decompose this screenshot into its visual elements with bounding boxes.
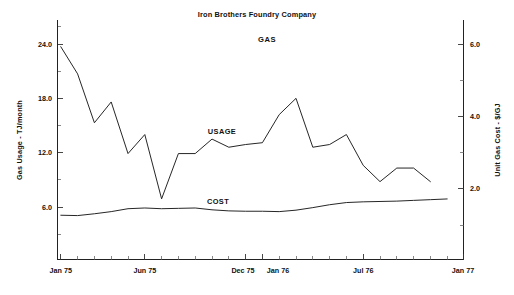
y2-axis-title: Unit Gas Cost - $/GJ xyxy=(493,103,502,177)
gas-chart: Iron Brothers Foundry Company GAS 24.0 1… xyxy=(0,0,514,295)
chart-title: Iron Brothers Foundry Company xyxy=(198,10,317,19)
usage-series-label: USAGE xyxy=(208,127,236,136)
xtick-label-jun75: Jun 75 xyxy=(133,266,156,275)
xtick-label-dec75: Dec 75 xyxy=(231,266,254,275)
chart-svg: Iron Brothers Foundry Company GAS 24.0 1… xyxy=(0,0,514,295)
ytick-label-6: 6.0 xyxy=(42,203,52,212)
y2tick-label-4: 4.0 xyxy=(470,112,480,121)
xtick-label-jan75: Jan 75 xyxy=(50,266,72,275)
y-axis-title: Gas Usage - TJ/month xyxy=(15,100,24,180)
chart-subtitle: GAS xyxy=(258,35,276,44)
chart-background xyxy=(0,0,514,295)
xtick-label-jan76: Jan 76 xyxy=(267,266,289,275)
xtick-label-jul76: Jul 76 xyxy=(353,266,373,275)
y2tick-label-6: 6.0 xyxy=(470,40,480,49)
ytick-label-12: 12.0 xyxy=(38,148,52,157)
y2tick-label-2: 2.0 xyxy=(470,184,480,193)
cost-series-label: COST xyxy=(207,197,229,206)
ytick-label-24: 24.0 xyxy=(38,40,52,49)
xtick-label-jan77: Jan 77 xyxy=(452,266,474,275)
ytick-label-18: 18.0 xyxy=(38,94,52,103)
